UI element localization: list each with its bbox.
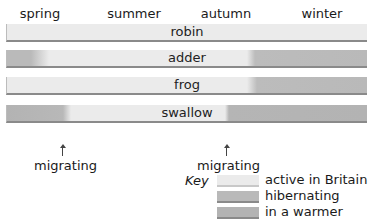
bar-robin: robin: [6, 24, 367, 42]
arrow-line: [62, 147, 63, 156]
bar-adder: adder: [6, 50, 367, 68]
bar-swallow: swallow: [6, 105, 367, 123]
legend-label-hibernating: hibernating: [265, 188, 340, 203]
annotation-migrating-spring: migrating: [34, 158, 97, 173]
legend-label-warmer: in a warmer country: [265, 204, 380, 222]
legend-swatch-hibernating: [217, 191, 259, 203]
arrow-up-icon: [60, 144, 66, 148]
annotation-migrating-autumn: migrating: [197, 158, 260, 173]
arrow-line: [226, 147, 227, 156]
legend-title: Key: [185, 173, 209, 188]
legend-label-active: active in Britain: [265, 172, 367, 187]
bar-label: swallow: [7, 105, 367, 121]
bar-frog: frog: [6, 77, 367, 95]
bar-label: robin: [7, 24, 367, 40]
bar-label: adder: [7, 50, 367, 66]
legend-swatch-warmer: [217, 207, 259, 219]
season-winter: winter: [282, 6, 362, 21]
arrow-up-icon: [224, 144, 230, 148]
legend-swatch-active: [217, 175, 259, 187]
season-spring: spring: [0, 6, 80, 21]
bar-label: frog: [7, 77, 367, 93]
season-autumn: autumn: [186, 6, 266, 21]
season-summer: summer: [94, 6, 174, 21]
